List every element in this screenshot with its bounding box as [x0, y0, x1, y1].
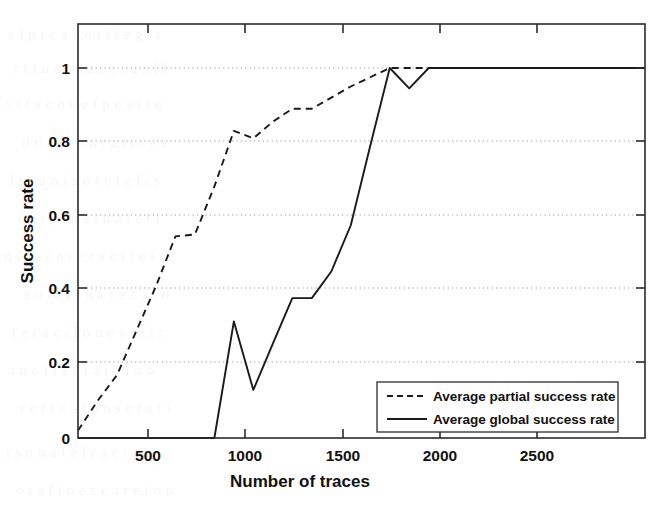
y-tick-label-0.2: 0.2 [48, 354, 70, 371]
x-tick-label-1500: 1500 [326, 447, 360, 464]
plot-area-background [78, 24, 645, 438]
y-tick-label-0.4: 0.4 [48, 280, 70, 297]
x-tick-label-2000: 2000 [423, 447, 457, 464]
y-tick-label-0.6: 0.6 [48, 207, 70, 224]
y-axis-title: Success rate [18, 179, 37, 284]
x-tick-label-1000: 1000 [228, 447, 262, 464]
y-tick-label-1: 1 [61, 60, 70, 77]
legend-label-average-global-success-rate: Average global success rate [433, 412, 615, 427]
y-tick-label-0: 0 [61, 430, 70, 447]
x-tick-label-2500: 2500 [520, 447, 554, 464]
x-axis-title: Number of traces [230, 472, 370, 491]
legend: Average partial success rate Average glo… [377, 382, 618, 432]
chart-canvas: 1 0.8 0.6 0.4 0.2 0 500 1000 1500 2000 2… [0, 0, 668, 515]
figure-chart: e l p i c a n o t i l e g i t r t i n o … [0, 0, 668, 515]
legend-label-average-partial-success-rate: Average partial success rate [433, 389, 616, 404]
x-tick-label-500: 500 [135, 447, 161, 464]
y-tick-label-0.8: 0.8 [48, 133, 70, 150]
